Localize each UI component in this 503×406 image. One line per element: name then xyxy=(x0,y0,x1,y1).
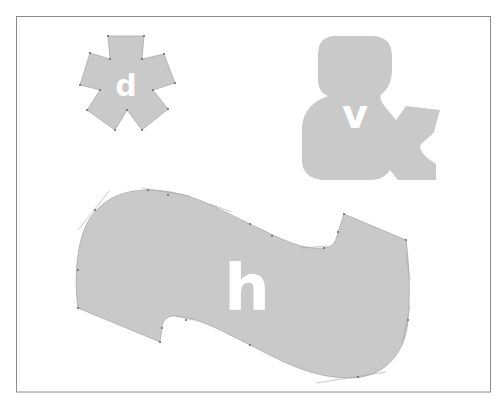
ampersand-label: v xyxy=(342,91,368,137)
diagram-svg: d v xyxy=(0,0,503,406)
star-label: d xyxy=(115,68,136,103)
tilde-label: h xyxy=(224,251,270,325)
diagram-canvas: d v xyxy=(0,0,503,406)
